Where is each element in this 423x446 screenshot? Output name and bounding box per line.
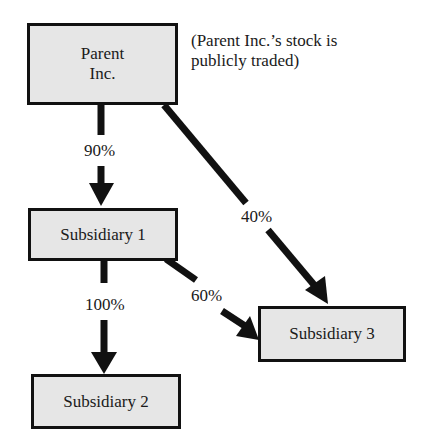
node-parent-line1: Parent xyxy=(81,44,124,64)
edge-label-90: 90% xyxy=(83,142,116,160)
node-parent-line2: Inc. xyxy=(90,64,116,84)
edge-parent-sub3 xyxy=(164,105,246,203)
node-subsidiary-1: Subsidiary 1 xyxy=(28,208,178,261)
node-subsidiary-2: Subsidiary 2 xyxy=(31,374,181,429)
edge-label-100: 100% xyxy=(84,296,126,314)
edge-label-60: 60% xyxy=(190,287,223,305)
parent-note-line1: (Parent Inc.’s stock is xyxy=(191,31,337,51)
node-subsidiary-3-label: Subsidiary 3 xyxy=(289,324,374,344)
node-subsidiary-2-label: Subsidiary 2 xyxy=(63,392,148,412)
edge-label-40: 40% xyxy=(240,208,273,226)
node-subsidiary-3: Subsidiary 3 xyxy=(258,306,406,362)
node-subsidiary-1-label: Subsidiary 1 xyxy=(60,225,145,245)
parent-note: (Parent Inc.’s stock is publicly traded) xyxy=(191,31,337,71)
parent-note-line2: publicly traded) xyxy=(191,51,337,71)
edge-sub1-sub3 xyxy=(166,259,196,280)
node-parent-inc: Parent Inc. xyxy=(27,23,178,105)
